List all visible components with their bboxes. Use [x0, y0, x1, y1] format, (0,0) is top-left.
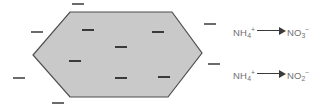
product-nitrate: NO3− — [287, 27, 309, 40]
reaction-ammonium-to-nitrite: NH4+NO2− — [233, 69, 309, 83]
charge-exterior-upper-right — [204, 23, 216, 25]
charge-interior-6 — [158, 76, 170, 78]
charge-exterior-upper-left — [31, 31, 43, 33]
charge-exterior-bottom — [52, 102, 64, 104]
charge-interior-2 — [152, 31, 164, 33]
charge-exterior-lower-right — [208, 63, 220, 65]
reactant-ammonium-1: NH4+ — [233, 27, 255, 40]
soil-colloid-nitrification-figure: NH4+NO3− NH4+NO2− — [0, 0, 329, 110]
reaction-ammonium-to-nitrate: NH4+NO3− — [233, 26, 309, 40]
charge-interior-4 — [69, 60, 81, 62]
reaction-arrow-1 — [255, 26, 287, 35]
charge-interior-3 — [115, 46, 127, 48]
arrow-head-icon — [279, 27, 286, 35]
arrow-head-icon — [279, 70, 286, 78]
charge-interior-1 — [82, 29, 94, 31]
diagram-canvas — [0, 0, 329, 110]
charge-exterior-top — [72, 3, 84, 5]
reaction-arrow-2 — [255, 69, 287, 78]
reactant-ammonium-2: NH4+ — [233, 70, 255, 83]
product-nitrite: NO2− — [287, 70, 309, 83]
arrow-shaft — [257, 30, 281, 31]
charge-exterior-left — [13, 77, 25, 79]
hexagonal-soil-colloid — [33, 12, 202, 97]
charge-interior-5 — [115, 77, 127, 79]
arrow-shaft — [257, 73, 281, 74]
